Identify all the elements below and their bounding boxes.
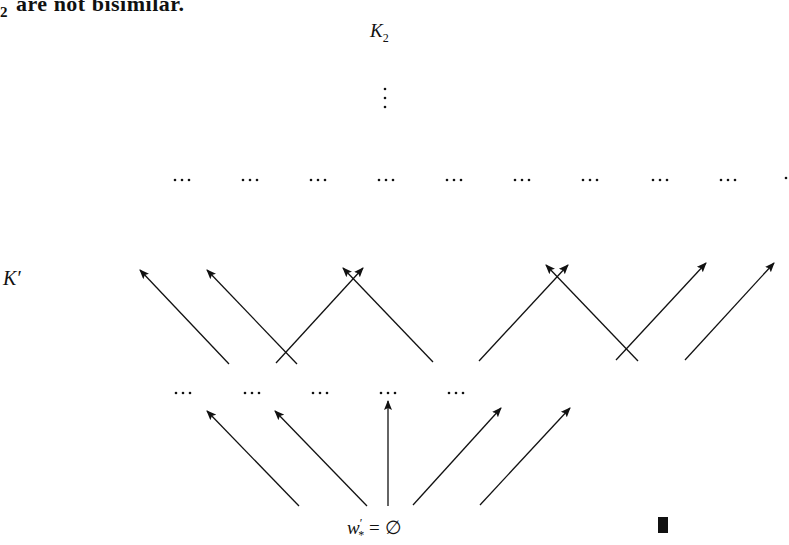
ellipsis-dot <box>462 392 465 395</box>
ellipsis-dot <box>652 179 655 182</box>
ellipsis-dot <box>174 179 177 182</box>
upper-arrow-group <box>140 263 774 364</box>
qed-box-icon <box>658 517 668 533</box>
ellipsis-dot <box>528 179 531 182</box>
ellipsis-dot <box>324 179 327 182</box>
edge-arrow <box>480 408 570 505</box>
ellipsis-dot <box>455 392 458 395</box>
ellipsis-dot <box>319 392 322 395</box>
edge-arrow <box>546 265 638 361</box>
vertical-ellipsis <box>384 88 387 109</box>
ellipsis-dot <box>446 179 449 182</box>
upper-ellipsis-row <box>174 177 788 182</box>
graph-diagram <box>0 0 789 545</box>
ellipsis-dot <box>394 392 397 395</box>
ellipsis-dot <box>181 179 184 182</box>
edge-arrow <box>207 270 297 364</box>
ellipsis-dot <box>312 392 315 395</box>
edge-arrow <box>479 265 568 361</box>
ellipsis-dot <box>380 392 383 395</box>
ellipsis-dot <box>521 179 524 182</box>
ellipsis-dot <box>242 179 245 182</box>
ellipsis-dot <box>310 179 313 182</box>
ellipsis-dot <box>460 179 463 182</box>
edge-arrow <box>275 411 367 506</box>
edge-arrow <box>276 268 363 363</box>
ellipsis-dot <box>582 179 585 182</box>
ellipsis-dot <box>188 179 191 182</box>
edge-arrow <box>207 411 299 506</box>
ellipsis-dot <box>734 179 737 182</box>
edge-arrow <box>343 268 433 362</box>
ellipsis-dot <box>720 179 723 182</box>
ellipsis-dot <box>258 392 261 395</box>
ellipsis-dot <box>659 179 662 182</box>
ellipsis-dot <box>727 179 730 182</box>
ellipsis-dot <box>392 179 395 182</box>
ellipsis-dot <box>453 179 456 182</box>
ellipsis-dot <box>666 179 669 182</box>
lower-ellipsis-row <box>175 392 465 395</box>
edge-arrow <box>685 263 774 360</box>
ellipsis-dot <box>317 179 320 182</box>
ellipsis-dot <box>251 392 254 395</box>
ellipsis-dot <box>189 392 192 395</box>
ellipsis-dot <box>589 179 592 182</box>
ellipsis-dot <box>596 179 599 182</box>
lower-arrow-group <box>207 401 570 506</box>
edge-arrow <box>140 270 229 364</box>
ellipsis-dot <box>182 392 185 395</box>
ellipsis-dot <box>175 392 178 395</box>
edge-arrow <box>413 408 501 505</box>
edge-arrow <box>616 263 706 360</box>
ellipsis-dot <box>326 392 329 395</box>
ellipsis-dot <box>514 179 517 182</box>
ellipsis-dot <box>387 392 390 395</box>
ellipsis-dot <box>244 392 247 395</box>
ellipsis-dot <box>249 179 252 182</box>
ellipsis-dot <box>448 392 451 395</box>
ellipsis-dot <box>378 179 381 182</box>
ellipsis-dot <box>385 179 388 182</box>
ellipsis-dot <box>256 179 259 182</box>
